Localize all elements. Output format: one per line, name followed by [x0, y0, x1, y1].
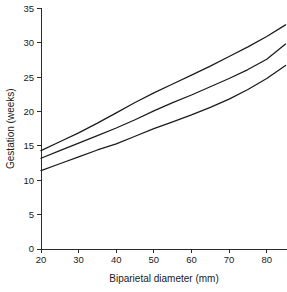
- x-axis-title: Biparietal diameter (mm): [109, 273, 218, 284]
- chart-background: [0, 0, 287, 292]
- x-tick-label-80: 80: [261, 254, 272, 265]
- y-tick-label-30: 30: [23, 37, 34, 48]
- y-axis-title: Gestation (weeks): [5, 88, 16, 169]
- y-tick-label-5: 5: [29, 209, 34, 220]
- y-tick-label-35: 35: [23, 3, 34, 14]
- y-tick-label-25: 25: [23, 72, 34, 83]
- y-tick-label-15: 15: [23, 140, 34, 151]
- y-tick-label-0: 0: [29, 243, 34, 254]
- x-tick-label-50: 50: [149, 254, 160, 265]
- y-tick-label-20: 20: [23, 106, 34, 117]
- x-tick-label-60: 60: [186, 254, 197, 265]
- x-tick-label-30: 30: [73, 254, 84, 265]
- x-tick-label-20: 20: [36, 254, 47, 265]
- gestation-biparietal-line-chart: 05101520253035 20304050607080 Gestation …: [0, 0, 287, 292]
- chart-container: 05101520253035 20304050607080 Gestation …: [0, 0, 287, 292]
- x-tick-label-70: 70: [224, 254, 235, 265]
- y-tick-label-10: 10: [23, 175, 34, 186]
- x-tick-label-40: 40: [111, 254, 122, 265]
